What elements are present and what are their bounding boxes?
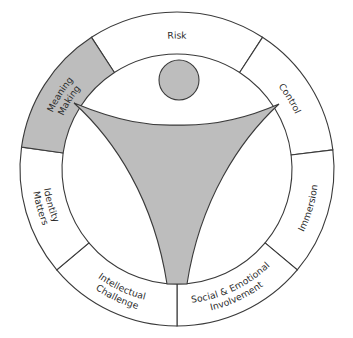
person-figure-body (74, 103, 279, 284)
engagement-wheel-diagram: RiskControlImmersionSocial & EmotionalIn… (0, 0, 353, 338)
segment-label-risk: Risk (167, 29, 187, 40)
person-figure-head (159, 60, 199, 100)
